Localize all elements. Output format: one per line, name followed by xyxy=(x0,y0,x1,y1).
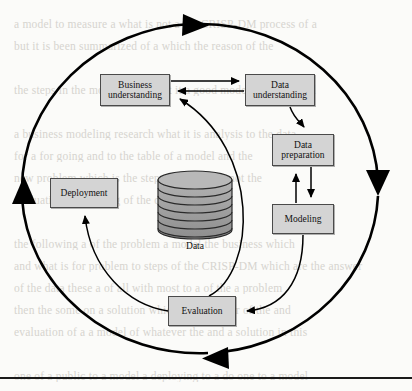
node-evaluation[interactable]: Evaluation xyxy=(168,296,236,326)
node-deployment[interactable]: Deployment xyxy=(50,178,118,208)
cycle-arrow-bottom xyxy=(202,347,229,369)
node-modeling[interactable]: Modeling xyxy=(272,204,334,234)
edge-du-to-dp xyxy=(290,107,304,127)
node-data-preparation[interactable]: Data preparation xyxy=(272,134,334,166)
edge-modeling-to-evaluation xyxy=(247,235,303,311)
data-cylinder-icon xyxy=(158,171,232,239)
page-bottom-rule xyxy=(0,377,412,379)
cycle-arrow-top xyxy=(182,14,209,36)
node-data-preparation-line1: Data xyxy=(294,140,312,150)
cycle-arrow-left xyxy=(12,176,36,204)
data-cylinder-caption: Data xyxy=(158,241,232,251)
cycle-arrow-right xyxy=(366,170,390,196)
node-data-understanding[interactable]: Data understanding xyxy=(245,74,315,106)
node-evaluation-label: Evaluation xyxy=(181,306,222,316)
node-modeling-label: Modeling xyxy=(285,214,322,224)
node-data-preparation-line2: preparation xyxy=(281,150,324,160)
node-business-understanding-line2: understanding xyxy=(108,90,162,100)
node-data-understanding-line2: understanding xyxy=(253,90,307,100)
edge-evaluation-to-deployment xyxy=(85,216,168,311)
node-business-understanding-line1: Business xyxy=(118,80,152,90)
node-business-understanding[interactable]: Business understanding xyxy=(100,74,170,106)
node-data-understanding-line1: Data xyxy=(271,80,289,90)
figure-page: a model to measure a what is not a the C… xyxy=(0,0,412,391)
node-deployment-label: Deployment xyxy=(61,188,108,198)
